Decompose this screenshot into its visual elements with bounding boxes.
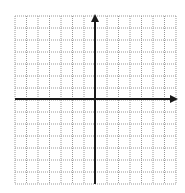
coordinate-plane [0, 0, 185, 193]
y-axis-arrow-icon [91, 14, 99, 22]
x-axis-arrow-icon [170, 95, 178, 103]
